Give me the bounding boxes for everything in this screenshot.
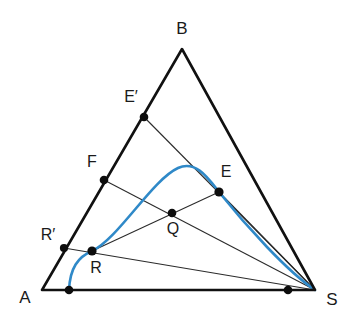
blue-parabola-curve <box>69 166 315 290</box>
geometry-diagram: A B S E′ F E R′ Q R <box>0 0 353 324</box>
point-curve-foot-on-as <box>65 286 74 295</box>
label-point-rprime: R′ <box>41 226 56 243</box>
point-q <box>168 209 177 218</box>
point-r <box>87 246 96 255</box>
label-point-eprime: E′ <box>124 88 138 105</box>
vertex-labels: A B S <box>19 19 337 309</box>
point-labels: E′ F E R′ Q R <box>41 88 232 276</box>
label-vertex-a: A <box>19 288 31 307</box>
segment-r-e <box>92 192 219 251</box>
geometry-canvas: A B S E′ F E R′ Q R <box>0 0 353 324</box>
segment-e-s <box>219 192 315 290</box>
label-point-e: E <box>221 163 232 180</box>
label-point-q: Q <box>167 220 179 237</box>
point-f <box>100 176 109 185</box>
point-eprime <box>140 113 149 122</box>
point-near-s-on-as <box>284 286 293 295</box>
point-rprime <box>60 244 68 252</box>
point-e <box>214 187 223 196</box>
label-point-f: F <box>87 153 97 170</box>
label-vertex-s: S <box>326 290 337 309</box>
label-point-r: R <box>90 259 102 276</box>
label-vertex-b: B <box>176 19 187 38</box>
